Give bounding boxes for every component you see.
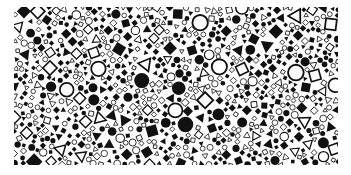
diamond-shape bbox=[77, 141, 85, 149]
square-shape bbox=[297, 155, 301, 159]
circle-shape bbox=[26, 114, 31, 119]
circle-shape bbox=[290, 105, 295, 110]
diamond-shape bbox=[283, 22, 288, 27]
triangle-shape bbox=[14, 39, 17, 43]
triangle-shape bbox=[42, 87, 46, 92]
diamond-shape bbox=[324, 68, 329, 73]
square-shape bbox=[116, 75, 122, 81]
triangle-shape bbox=[93, 147, 98, 152]
square-shape bbox=[193, 82, 198, 87]
diamond-shape bbox=[83, 25, 93, 35]
diamond-shape bbox=[294, 132, 304, 142]
circle-shape bbox=[186, 71, 192, 77]
square-shape bbox=[22, 143, 26, 147]
triangle-shape bbox=[303, 140, 312, 149]
diamond-shape bbox=[100, 100, 107, 107]
circle-shape bbox=[244, 84, 250, 90]
square-shape bbox=[276, 59, 282, 65]
circle-shape bbox=[216, 141, 221, 146]
circle-shape bbox=[113, 106, 118, 111]
square-shape bbox=[261, 112, 268, 119]
triangle-shape bbox=[303, 77, 307, 82]
circle-shape bbox=[203, 62, 209, 68]
square-shape bbox=[243, 23, 250, 30]
triangle-shape bbox=[276, 13, 284, 22]
diamond-shape bbox=[147, 139, 152, 144]
triangle-shape bbox=[22, 117, 27, 121]
triangle-shape bbox=[243, 144, 248, 149]
circle-shape bbox=[320, 115, 327, 122]
square-shape bbox=[262, 149, 268, 155]
square-shape bbox=[88, 111, 94, 117]
triangle-shape bbox=[250, 65, 254, 70]
square-shape bbox=[310, 26, 315, 31]
triangle-shape bbox=[195, 66, 200, 70]
square-shape bbox=[107, 13, 111, 17]
triangle-shape bbox=[259, 119, 267, 127]
circle-shape bbox=[60, 83, 74, 97]
circle-shape bbox=[49, 144, 54, 149]
diamond-shape bbox=[156, 108, 161, 113]
diamond-shape bbox=[168, 146, 173, 151]
square-shape bbox=[23, 101, 28, 106]
square-shape bbox=[328, 143, 338, 155]
diamond-shape bbox=[231, 41, 236, 46]
diamond-shape bbox=[151, 94, 157, 100]
diamond-shape bbox=[100, 52, 105, 57]
diamond-shape bbox=[285, 102, 290, 107]
triangle-shape bbox=[209, 116, 214, 122]
diamond-shape bbox=[280, 40, 285, 45]
triangle-shape bbox=[33, 121, 38, 126]
square-shape bbox=[247, 30, 251, 34]
diamond-shape bbox=[49, 41, 54, 46]
diamond-shape bbox=[308, 55, 313, 60]
triangle-shape bbox=[127, 110, 131, 114]
triangle-shape bbox=[114, 27, 118, 31]
circle-shape bbox=[63, 67, 68, 72]
diamond-shape bbox=[163, 41, 177, 55]
circle-shape bbox=[305, 49, 310, 54]
diamond-shape bbox=[163, 154, 171, 162]
circle-shape bbox=[232, 145, 239, 152]
circle-shape bbox=[168, 82, 173, 87]
triangle-shape bbox=[327, 122, 337, 132]
square-shape bbox=[106, 75, 112, 81]
circle-shape bbox=[238, 25, 243, 30]
circle-shape bbox=[31, 89, 36, 94]
circle-shape bbox=[183, 7, 188, 11]
square-shape bbox=[47, 75, 52, 80]
diamond-shape bbox=[183, 106, 193, 116]
circle-shape bbox=[72, 140, 77, 145]
triangle-shape bbox=[82, 137, 86, 141]
triangle-shape bbox=[200, 49, 205, 53]
circle-shape bbox=[39, 149, 47, 157]
circle-shape bbox=[288, 65, 304, 81]
square-shape bbox=[251, 101, 257, 107]
triangle-shape bbox=[120, 145, 124, 149]
square-shape bbox=[285, 31, 290, 36]
diamond-shape bbox=[295, 59, 300, 64]
square-shape bbox=[131, 20, 137, 26]
circle-shape bbox=[88, 83, 97, 92]
circle-shape bbox=[267, 59, 272, 64]
circle-shape bbox=[46, 81, 56, 91]
square-shape bbox=[141, 146, 153, 158]
square-shape bbox=[78, 22, 83, 27]
circle-shape bbox=[253, 150, 258, 155]
square-shape bbox=[171, 121, 175, 125]
triangle-shape bbox=[133, 57, 137, 61]
circle-shape bbox=[129, 162, 135, 165]
diamond-shape bbox=[222, 129, 230, 137]
triangle-shape bbox=[55, 48, 59, 53]
circle-shape bbox=[91, 62, 106, 77]
triangle-shape bbox=[115, 7, 119, 9]
circle-shape bbox=[86, 157, 91, 162]
circle-shape bbox=[136, 126, 142, 132]
square-shape bbox=[68, 70, 72, 74]
triangle-shape bbox=[190, 94, 196, 100]
triangle-shape bbox=[74, 68, 79, 72]
diamond-shape bbox=[33, 115, 38, 120]
triangle-shape bbox=[55, 92, 59, 96]
circle-shape bbox=[58, 38, 63, 43]
diamond-shape bbox=[139, 141, 144, 146]
